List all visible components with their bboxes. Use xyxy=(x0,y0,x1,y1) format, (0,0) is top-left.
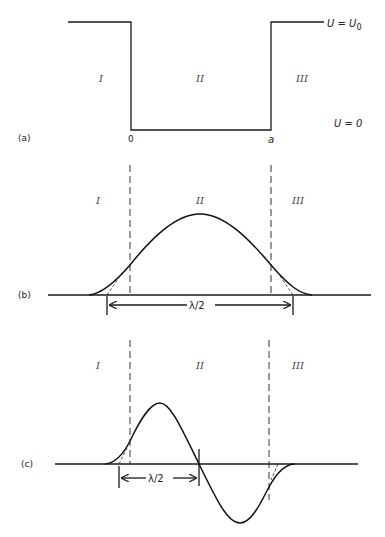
region-label-III: III xyxy=(291,360,305,371)
panel-b: λ/2 (b) I II III xyxy=(18,165,371,315)
region-label-III: III xyxy=(291,195,305,206)
panel-a: (a) I II III 0 a U = U0 U = 0 xyxy=(18,18,362,145)
region-label-I: I xyxy=(95,195,101,206)
x-mark-zero: 0 xyxy=(128,134,134,144)
tangent-right xyxy=(276,270,293,295)
lambda-half-label: λ/2 xyxy=(148,473,164,484)
lambda-half-label: λ/2 xyxy=(189,300,205,311)
x-mark-a: a xyxy=(268,134,274,145)
potential-high-label: U = U0 xyxy=(327,18,361,32)
region-label-III: III xyxy=(295,73,309,84)
panel-c: λ/2 (c) I II III xyxy=(21,340,358,523)
panel-c-label: (c) xyxy=(21,459,33,469)
panel-b-label: (b) xyxy=(18,290,31,300)
excited-state-wavefunction xyxy=(105,403,295,523)
panel-a-label: (a) xyxy=(18,133,31,143)
region-label-II: II xyxy=(195,73,205,84)
region-label-II: II xyxy=(195,195,205,206)
ground-state-wavefunction xyxy=(89,214,312,295)
region-label-II: II xyxy=(195,360,205,371)
potential-low-label: U = 0 xyxy=(334,118,362,129)
region-label-I: I xyxy=(98,73,104,84)
tangent-left xyxy=(107,270,124,295)
wavefunction-diagram: (a) I II III 0 a U = U0 U = 0 λ/2 (b) I … xyxy=(0,0,385,537)
region-label-I: I xyxy=(95,360,101,371)
